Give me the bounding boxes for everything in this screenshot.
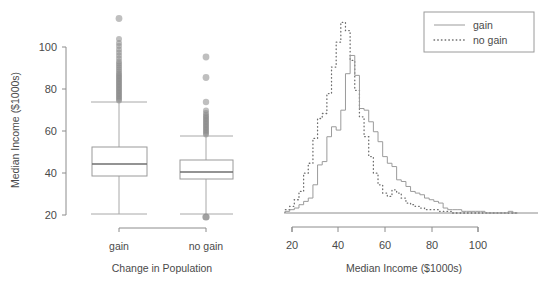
y-tick-label-80: 80 xyxy=(45,83,57,95)
boxplot-x-axis-title: Change in Population xyxy=(112,262,213,274)
gain-outliers xyxy=(116,15,123,103)
x-tick-label-80: 80 xyxy=(426,239,438,251)
histogram-panel: 20 40 60 80 100 Median Income ($1000s) g… xyxy=(285,12,538,274)
x-tick-label-100: 100 xyxy=(469,239,487,251)
legend-label-gain: gain xyxy=(473,19,493,31)
boxplot-x-axis-bracket xyxy=(119,228,206,232)
x-tick-label-60: 60 xyxy=(379,239,391,251)
legend-box xyxy=(424,12,534,52)
nogain-box xyxy=(180,160,233,179)
x-tick-label-40: 40 xyxy=(332,239,344,251)
y-tick-label-100: 100 xyxy=(39,41,57,53)
y-tick-label-60: 60 xyxy=(45,125,57,137)
legend-label-no-gain: no gain xyxy=(473,34,508,46)
boxplot-group-gain xyxy=(91,15,147,214)
boxplot-y-axis-title: Median Income ($1000s) xyxy=(9,72,21,188)
histogram-legend: gain no gain xyxy=(424,12,534,52)
figure-svg: Median Income ($1000s) 100 80 60 40 20 g… xyxy=(0,0,546,286)
x-tick-label-20: 20 xyxy=(286,239,298,251)
boxplot-x-axis: gain no gain Change in Population xyxy=(109,228,223,274)
boxplot-group-no-gain xyxy=(180,54,233,221)
category-label-gain: gain xyxy=(109,240,129,252)
boxplot-panel: Median Income ($1000s) 100 80 60 40 20 g… xyxy=(9,15,233,274)
gain-box xyxy=(92,147,147,176)
statistical-figure: Median Income ($1000s) 100 80 60 40 20 g… xyxy=(0,0,546,286)
y-tick-label-20: 20 xyxy=(45,209,57,221)
boxplot-y-axis: 100 80 60 40 20 xyxy=(39,41,66,221)
histogram-curve-gain xyxy=(285,55,518,213)
y-tick-label-40: 40 xyxy=(45,167,57,179)
histogram-x-axis-title: Median Income ($1000s) xyxy=(346,262,462,274)
category-label-no-gain: no gain xyxy=(189,240,224,252)
histogram-x-axis: 20 40 60 80 100 Median Income ($1000s) xyxy=(286,227,487,274)
